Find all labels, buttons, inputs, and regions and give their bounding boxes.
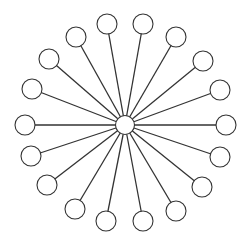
leaf-node-n5	[210, 80, 230, 100]
leaf-node-n2	[133, 14, 153, 34]
edge-hub-n17	[49, 59, 125, 125]
leaf-node-n11	[96, 211, 116, 231]
edge-hub-n13	[47, 125, 125, 185]
leaf-node-n16	[22, 79, 42, 99]
edge-hub-n11	[106, 125, 125, 221]
leaf-node-n14	[21, 146, 41, 166]
leaf-node-n8	[192, 177, 212, 197]
leaf-node-n1	[97, 14, 117, 34]
leaf-node-n13	[37, 175, 57, 195]
leaf-node-n4	[193, 51, 213, 71]
leaf-node-n15	[15, 115, 35, 135]
leaf-node-n18	[66, 27, 86, 47]
edge-hub-n8	[125, 125, 202, 187]
leaf-node-n6	[216, 115, 236, 135]
edge-hub-n5	[125, 90, 220, 125]
hub-node	[116, 116, 135, 135]
leaf-node-n3	[166, 27, 186, 47]
edge-hub-n4	[125, 61, 203, 125]
edge-hub-n12	[75, 125, 125, 209]
edge-hub-n14	[31, 125, 125, 156]
star-graph-diagram	[0, 0, 249, 248]
edge-hub-n16	[32, 89, 125, 125]
edge-hub-n7	[125, 125, 220, 157]
leaf-node-n17	[39, 49, 59, 69]
nodes	[15, 14, 236, 231]
leaf-node-n12	[65, 199, 85, 219]
leaf-node-n7	[210, 147, 230, 167]
leaf-node-n9	[166, 201, 186, 221]
leaf-node-n10	[133, 211, 153, 231]
